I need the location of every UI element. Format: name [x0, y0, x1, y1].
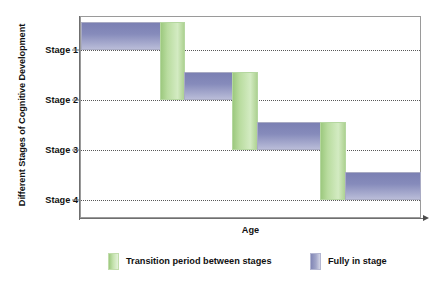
plot-inner: [81, 17, 420, 217]
y-tick-label-stage-3: Stage 3: [16, 145, 78, 155]
x-axis-arrow-icon: [423, 215, 429, 221]
gridline-stage-3: [81, 150, 420, 151]
chart-legend: Transition period between stages Fully i…: [0, 252, 439, 276]
bar-transition-stage-1-to-2: [160, 22, 185, 100]
legend-item-transition: Transition period between stages: [108, 252, 272, 270]
x-axis-line: [80, 218, 425, 219]
legend-swatch-transition-icon: [108, 253, 119, 270]
bar-fully-in-stage-1: [81, 22, 161, 50]
gridline-stage-1: [81, 50, 420, 51]
plot-area: [80, 16, 421, 218]
legend-swatch-fully-in-stage-icon: [310, 253, 321, 270]
bar-transition-stage-2-to-3: [232, 72, 258, 150]
bar-transition-stage-3-to-4: [320, 122, 346, 200]
y-tick-label-stage-2: Stage 2: [16, 95, 78, 105]
cognitive-development-stage-chart: Different Stages of Cognitive Developmen…: [0, 0, 439, 286]
bar-fully-in-stage-4: [345, 172, 421, 200]
y-axis-tick-labels: Stage 1 Stage 2 Stage 3 Stage 4: [12, 0, 78, 286]
gridline-stage-4: [81, 200, 420, 201]
legend-label-transition: Transition period between stages: [126, 256, 272, 266]
x-axis-title: Age: [80, 225, 421, 235]
y-tick-label-stage-1: Stage 1: [16, 45, 78, 55]
bar-fully-in-stage-3: [257, 122, 321, 150]
legend-item-fully-in-stage: Fully in stage: [310, 252, 387, 270]
legend-label-fully-in-stage: Fully in stage: [328, 256, 387, 266]
y-tick-label-stage-4: Stage 4: [16, 195, 78, 205]
bar-fully-in-stage-2: [184, 72, 233, 100]
